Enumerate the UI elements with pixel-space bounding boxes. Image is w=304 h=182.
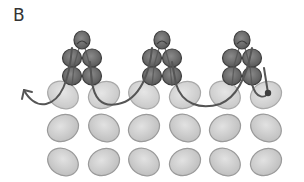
light-bead bbox=[84, 143, 124, 180]
light-bead bbox=[124, 109, 164, 146]
dark-bead-cluster bbox=[63, 31, 102, 86]
light-bead bbox=[84, 109, 125, 148]
light-bead bbox=[205, 109, 245, 146]
dark-bead bbox=[74, 31, 90, 49]
light-bead bbox=[246, 109, 287, 148]
thread-start-dot bbox=[265, 90, 271, 96]
dark-bead bbox=[234, 31, 250, 49]
light-bead bbox=[43, 109, 83, 146]
light-bead bbox=[246, 143, 286, 180]
light-bead bbox=[43, 143, 84, 182]
dark-bead bbox=[154, 31, 170, 49]
light-bead-grid bbox=[43, 76, 287, 182]
bead-diagram bbox=[0, 0, 304, 182]
dark-bead bbox=[223, 49, 242, 67]
light-bead bbox=[124, 143, 165, 182]
light-bead bbox=[205, 143, 246, 182]
dark-bead bbox=[83, 49, 102, 67]
dark-bead-cluster bbox=[223, 31, 262, 86]
light-bead bbox=[165, 143, 205, 180]
light-bead bbox=[165, 109, 206, 148]
